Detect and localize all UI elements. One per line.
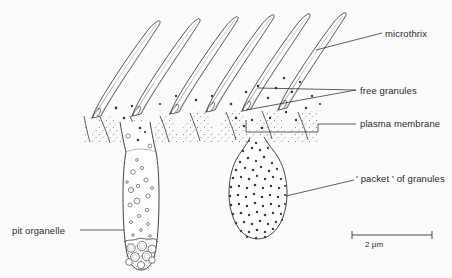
label-free-granules: free granules <box>360 85 417 96</box>
label-pit-organelle: pit organelle <box>12 225 65 236</box>
label-plasma-membrane: plasma membrane <box>360 118 440 129</box>
pit-organelle-structure <box>120 122 159 270</box>
diagram-artwork <box>0 0 452 278</box>
figure-tegument-diagram: microthrix free granules plasma membrane… <box>0 0 452 278</box>
label-packet-of-granules: ' packet ' of granules <box>356 173 445 184</box>
scale-bar-label: 2 µm <box>365 240 383 249</box>
label-microthrix: microthrix <box>385 28 427 39</box>
